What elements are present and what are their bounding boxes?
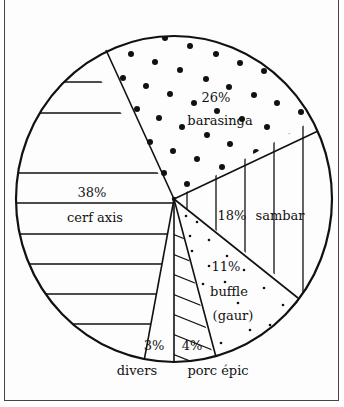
label-sambar-name: sambar bbox=[255, 208, 305, 223]
label-barasinga-pct: 26% bbox=[202, 90, 231, 105]
label-divers-pct: 3% bbox=[144, 338, 165, 353]
label-divers-name: divers bbox=[117, 363, 157, 378]
label-buffle-pct: 11% bbox=[212, 259, 241, 274]
label-buffle-name2: (gaur) bbox=[213, 308, 254, 323]
slice-cerf-axis bbox=[0, 82, 344, 324]
label-cerf-pct: 38% bbox=[78, 185, 107, 200]
pie-chart: 26% barasinga 38% cerf axis 18% sambar 1… bbox=[0, 0, 344, 407]
label-porc-pct: 4% bbox=[182, 338, 203, 353]
label-barasinga-name: barasinga bbox=[187, 113, 253, 128]
label-cerf-name: cerf axis bbox=[67, 210, 123, 225]
center-point bbox=[172, 197, 176, 201]
slice-sambar bbox=[187, 0, 303, 407]
label-buffle-name: buffle bbox=[210, 284, 248, 299]
label-porc-name: porc épic bbox=[187, 363, 248, 378]
label-sambar-pct: 18% bbox=[218, 208, 247, 223]
